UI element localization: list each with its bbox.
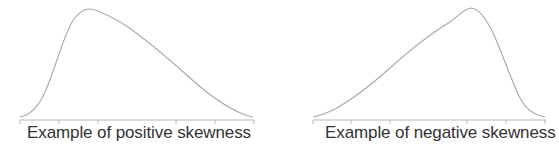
negative-skew-curve (313, 8, 545, 117)
chart-caption: Example of positive skewness (27, 123, 251, 143)
positive-skew-curve (20, 9, 253, 117)
positive-skew-panel: Example of positive skewness (0, 0, 280, 148)
chart-caption: Example of negative skewness (325, 123, 556, 143)
negative-skew-panel: Example of negative skewness (280, 0, 559, 148)
